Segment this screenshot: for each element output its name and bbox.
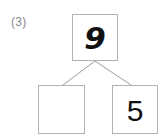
connector-line-right	[95, 61, 131, 85]
whole-box-value: 9	[84, 23, 106, 54]
connector-line-left	[63, 61, 95, 85]
part-box-right[interactable]: 5	[112, 85, 158, 134]
part-box-left[interactable]	[38, 85, 85, 134]
number-bond-worksheet-item: (3) 9 5	[0, 0, 163, 139]
part-box-right-value: 5	[127, 96, 144, 126]
whole-box[interactable]: 9	[72, 14, 118, 61]
